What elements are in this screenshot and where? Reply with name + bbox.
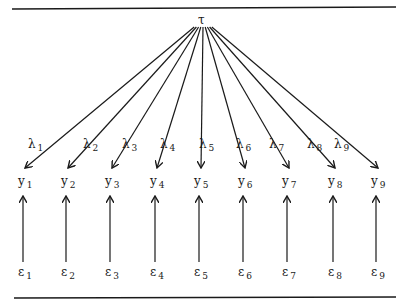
lambda-label-7-subscript: 7 bbox=[279, 143, 285, 153]
y-label-2-subscript: 2 bbox=[70, 180, 76, 190]
epsilon-label-3-subscript: 3 bbox=[113, 271, 119, 281]
lambda-label-7-symbol: λ bbox=[269, 137, 277, 151]
y-label-4: y4 bbox=[150, 175, 165, 187]
lambda-label-8-subscript: 8 bbox=[317, 143, 323, 153]
y-label-3-symbol: y bbox=[105, 174, 112, 188]
latent-tau-label: τ bbox=[198, 14, 205, 26]
epsilon-label-2-symbol: ε bbox=[61, 265, 67, 279]
y-label-2: y2 bbox=[61, 175, 76, 187]
y-label-6: y6 bbox=[238, 175, 253, 187]
y-label-4-symbol: y bbox=[150, 174, 157, 188]
lambda-label-6-symbol: λ bbox=[236, 137, 244, 151]
lambda-label-9: λ9 bbox=[334, 138, 349, 150]
lambda-label-5: λ5 bbox=[199, 138, 214, 150]
lambda-label-3-symbol: λ bbox=[122, 137, 130, 151]
lambda-label-5-subscript: 5 bbox=[209, 143, 215, 153]
y-label-1-symbol: y bbox=[18, 174, 25, 188]
lambda-label-3-subscript: 3 bbox=[132, 143, 138, 153]
y-label-1: y1 bbox=[18, 175, 33, 187]
epsilon-label-8-subscript: 8 bbox=[336, 271, 342, 281]
epsilon-label-3: ε3 bbox=[105, 266, 119, 278]
lambda-label-1: λ1 bbox=[28, 138, 43, 150]
top-rule bbox=[12, 7, 396, 9]
lambda-label-8-symbol: λ bbox=[307, 137, 315, 151]
epsilon-label-8-symbol: ε bbox=[328, 265, 334, 279]
y-label-7: y7 bbox=[282, 175, 297, 187]
lambda-label-4: λ4 bbox=[160, 138, 175, 150]
lambda-label-4-subscript: 4 bbox=[170, 143, 176, 153]
epsilon-label-9: ε9 bbox=[371, 266, 385, 278]
epsilon-label-6-symbol: ε bbox=[238, 265, 244, 279]
y-label-5-subscript: 5 bbox=[203, 180, 209, 190]
epsilon-label-4: ε4 bbox=[150, 266, 164, 278]
epsilon-label-9-symbol: ε bbox=[371, 265, 377, 279]
lambda-label-8: λ8 bbox=[307, 138, 322, 150]
lambda-label-1-symbol: λ bbox=[28, 137, 36, 151]
y-label-8-symbol: y bbox=[328, 174, 335, 188]
lambda-label-5-symbol: λ bbox=[199, 137, 207, 151]
lambda-label-6-subscript: 6 bbox=[246, 143, 252, 153]
lambda-label-6: λ6 bbox=[236, 138, 251, 150]
lambda-label-2-symbol: λ bbox=[83, 137, 91, 151]
epsilon-label-4-symbol: ε bbox=[150, 265, 156, 279]
epsilon-label-5: ε5 bbox=[194, 266, 208, 278]
lambda-label-4-symbol: λ bbox=[160, 137, 168, 151]
epsilon-label-6-subscript: 6 bbox=[246, 271, 252, 281]
epsilon-label-7-symbol: ε bbox=[282, 265, 288, 279]
bottom-rule bbox=[14, 297, 396, 298]
epsilon-label-2-subscript: 2 bbox=[69, 271, 75, 281]
epsilon-label-7-subscript: 7 bbox=[290, 271, 296, 281]
y-label-9: y9 bbox=[371, 175, 386, 187]
y-label-2-symbol: y bbox=[61, 174, 68, 188]
y-label-5-symbol: y bbox=[194, 174, 201, 188]
epsilon-label-4-subscript: 4 bbox=[158, 271, 164, 281]
epsilon-label-7: ε7 bbox=[282, 266, 296, 278]
epsilon-label-1-subscript: 1 bbox=[26, 271, 32, 281]
epsilon-label-3-symbol: ε bbox=[105, 265, 111, 279]
lambda-label-2-subscript: 2 bbox=[93, 143, 99, 153]
y-label-3-subscript: 3 bbox=[114, 180, 120, 190]
epsilon-label-1: ε1 bbox=[18, 266, 32, 278]
y-label-4-subscript: 4 bbox=[159, 180, 165, 190]
y-label-1-subscript: 1 bbox=[27, 180, 33, 190]
lambda-label-7: λ7 bbox=[269, 138, 284, 150]
lambda-label-9-symbol: λ bbox=[334, 137, 342, 151]
epsilon-label-8: ε8 bbox=[328, 266, 342, 278]
y-label-9-symbol: y bbox=[371, 174, 378, 188]
lambda-label-2: λ2 bbox=[83, 138, 98, 150]
lambda-label-1-subscript: 1 bbox=[38, 143, 44, 153]
y-label-8: y8 bbox=[328, 175, 343, 187]
epsilon-label-2: ε2 bbox=[61, 266, 75, 278]
y-label-8-subscript: 8 bbox=[337, 180, 343, 190]
y-label-3: y3 bbox=[105, 175, 120, 187]
y-label-7-subscript: 7 bbox=[291, 180, 297, 190]
epsilon-label-5-subscript: 5 bbox=[202, 271, 208, 281]
lambda-label-3: λ3 bbox=[122, 138, 137, 150]
y-label-6-subscript: 6 bbox=[247, 180, 253, 190]
epsilon-label-5-symbol: ε bbox=[194, 265, 200, 279]
y-label-9-subscript: 9 bbox=[380, 180, 386, 190]
epsilon-label-6: ε6 bbox=[238, 266, 252, 278]
lambda-label-9-subscript: 9 bbox=[344, 143, 350, 153]
y-label-5: y5 bbox=[194, 175, 209, 187]
y-label-7-symbol: y bbox=[282, 174, 289, 188]
epsilon-label-9-subscript: 9 bbox=[379, 271, 385, 281]
epsilon-label-1-symbol: ε bbox=[18, 265, 24, 279]
y-label-6-symbol: y bbox=[238, 174, 245, 188]
